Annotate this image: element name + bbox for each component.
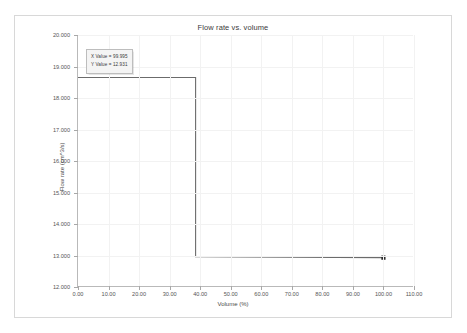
data-point-tooltip: X Value = 99.995 Y Value = 12.931: [86, 49, 133, 74]
x-axis-tick: [231, 286, 232, 290]
y-axis-tick: [74, 224, 78, 225]
x-axis-tick-label: 80.00: [315, 291, 329, 297]
x-axis-tick: [78, 286, 79, 290]
x-axis-tick-label: 30.00: [163, 291, 177, 297]
y-axis-tick-label: 20.000: [53, 32, 70, 38]
y-axis-tick-label: 13.000: [53, 253, 70, 259]
y-axis-title: Flow rate (cm^3/s): [59, 142, 65, 191]
tooltip-y-value: Y Value = 12.931: [91, 61, 128, 69]
y-gridline: [78, 256, 413, 257]
x-axis-tick-label: 10.00: [102, 291, 116, 297]
x-axis-tick: [200, 286, 201, 290]
x-axis-tick-label: 110.00: [406, 291, 423, 297]
x-axis-tick: [139, 286, 140, 290]
x-axis-tick-label: 60.00: [254, 291, 268, 297]
x-axis-tick-label: 100.00: [375, 291, 392, 297]
x-axis-tick-label: 0.00: [73, 291, 84, 297]
chart-card: Flow rate vs. volume 0.0010.0020.0030.00…: [14, 15, 452, 318]
x-axis-tick: [292, 286, 293, 290]
x-axis-tick: [109, 286, 110, 290]
y-axis-tick-label: 17.000: [53, 127, 70, 133]
tooltip-x-value: X Value = 99.995: [91, 53, 128, 61]
x-axis-title: Volume (%): [15, 301, 451, 307]
x-gridline: [414, 35, 415, 286]
y-axis-tick: [74, 130, 78, 131]
y-axis-tick: [74, 256, 78, 257]
chart-title: Flow rate vs. volume: [15, 23, 451, 32]
y-gridline: [78, 161, 413, 162]
x-axis-tick: [170, 286, 171, 290]
y-axis-tick: [74, 193, 78, 194]
x-axis-tick: [353, 286, 354, 290]
y-axis-tick: [74, 287, 78, 288]
y-axis-tick: [74, 35, 78, 36]
x-axis-tick-label: 40.00: [193, 291, 207, 297]
y-axis-tick-label: 14.000: [53, 221, 70, 227]
x-axis-tick-label: 50.00: [224, 291, 238, 297]
x-axis-tick: [322, 286, 323, 290]
x-axis-tick: [261, 286, 262, 290]
y-gridline: [78, 224, 413, 225]
y-axis-tick: [74, 161, 78, 162]
y-gridline: [78, 193, 413, 194]
y-gridline: [78, 98, 413, 99]
x-axis-tick-label: 70.00: [285, 291, 299, 297]
x-axis-tick-label: 90.00: [346, 291, 360, 297]
y-axis-tick-label: 12.000: [53, 284, 70, 290]
y-axis-tick: [74, 67, 78, 68]
y-axis-tick-label: 18.000: [53, 95, 70, 101]
y-gridline: [78, 35, 413, 36]
y-axis-tick-label: 19.000: [53, 64, 70, 70]
x-axis-tick: [414, 286, 415, 290]
x-axis-tick: [383, 286, 384, 290]
y-axis-tick: [74, 98, 78, 99]
y-gridline: [78, 130, 413, 131]
x-axis-tick-label: 20.00: [132, 291, 146, 297]
